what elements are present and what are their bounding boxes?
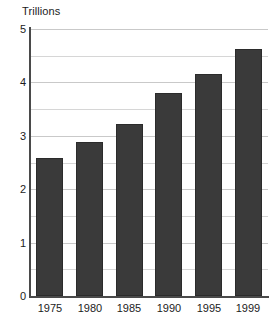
gridline-minor — [30, 163, 268, 164]
bar — [116, 124, 143, 296]
gridline-minor — [30, 56, 268, 57]
chart-title: Trillions — [22, 5, 60, 18]
bar — [76, 142, 103, 296]
x-axis-line — [29, 296, 269, 298]
gridline-minor — [30, 269, 268, 270]
y-axis-tick-label: 2 — [2, 184, 26, 195]
x-axis-tick-label: 1999 — [226, 302, 270, 315]
bar-chart: Trillions 012345 19751980198519901995199… — [0, 0, 272, 326]
x-axis-tick-label: 1990 — [147, 302, 191, 315]
y-axis-tick-label: 0 — [2, 291, 26, 302]
bar — [195, 74, 222, 296]
x-axis-tick-label: 1980 — [68, 302, 112, 315]
x-axis-tick-label: 1975 — [28, 302, 72, 315]
gridline-major — [30, 189, 268, 190]
gridline-minor — [30, 216, 268, 217]
y-axis-tick-label: 4 — [2, 77, 26, 88]
bar — [36, 158, 63, 296]
y-axis-tick-label: 5 — [2, 24, 26, 35]
bar — [235, 49, 262, 296]
y-axis-tick-label: 3 — [2, 131, 26, 142]
y-axis-tick-labels: 012345 — [0, 0, 26, 326]
gridline-minor — [30, 109, 268, 110]
x-axis-tick-label: 1985 — [107, 302, 151, 315]
x-axis-tick-labels: 197519801985199019951999 — [30, 302, 268, 322]
gridline-major — [30, 29, 268, 30]
y-axis-line — [29, 27, 31, 298]
y-axis-tick-label: 1 — [2, 238, 26, 249]
x-axis-tick-label: 1995 — [187, 302, 231, 315]
gridline-major — [30, 136, 268, 137]
bar — [155, 93, 182, 296]
gridline-major — [30, 82, 268, 83]
plot-area — [30, 29, 268, 296]
gridline-major — [30, 243, 268, 244]
